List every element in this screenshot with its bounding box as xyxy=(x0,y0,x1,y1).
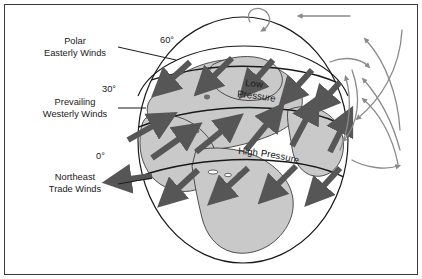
island-caribbean-b xyxy=(225,173,232,176)
island-marker-a xyxy=(204,95,210,100)
cell-arrow-inflow xyxy=(330,59,368,66)
cell-arrow-low-right xyxy=(352,160,398,168)
latitude-label-60: 60° xyxy=(160,35,174,45)
label-northeast-trade-line2: Trade Winds xyxy=(49,184,102,194)
label-polar-easterly-line2: Easterly Winds xyxy=(44,48,106,58)
wind-labels: Polar Easterly Winds Prevailing Westerly… xyxy=(43,36,108,194)
label-polar-easterly-line1: Polar xyxy=(64,36,86,46)
latitude-label-0: 0° xyxy=(96,151,105,161)
leader-line-polar xyxy=(118,47,176,60)
label-northeast-trade-line1: Northeast xyxy=(55,172,96,182)
label-prevailing-westerly-line2: Westerly Winds xyxy=(43,109,108,119)
label-prevailing-westerly-line1: Prevailing xyxy=(55,97,96,107)
island-caribbean-a xyxy=(208,170,218,174)
label-low-pressure-word1: Low xyxy=(245,77,264,90)
cell-arrow-outer-up xyxy=(366,40,400,130)
latitude-label-30: 30° xyxy=(102,84,116,94)
wind-arrow-trade-1 xyxy=(122,176,152,180)
island-marker-b xyxy=(193,129,200,133)
figure-container: Polar Easterly Winds Prevailing Westerly… xyxy=(0,0,422,279)
cell-arrow-low-up xyxy=(364,100,398,164)
cell-arrow-outer-down xyxy=(358,30,402,118)
wind-belts-diagram: Polar Easterly Winds Prevailing Westerly… xyxy=(0,0,422,279)
